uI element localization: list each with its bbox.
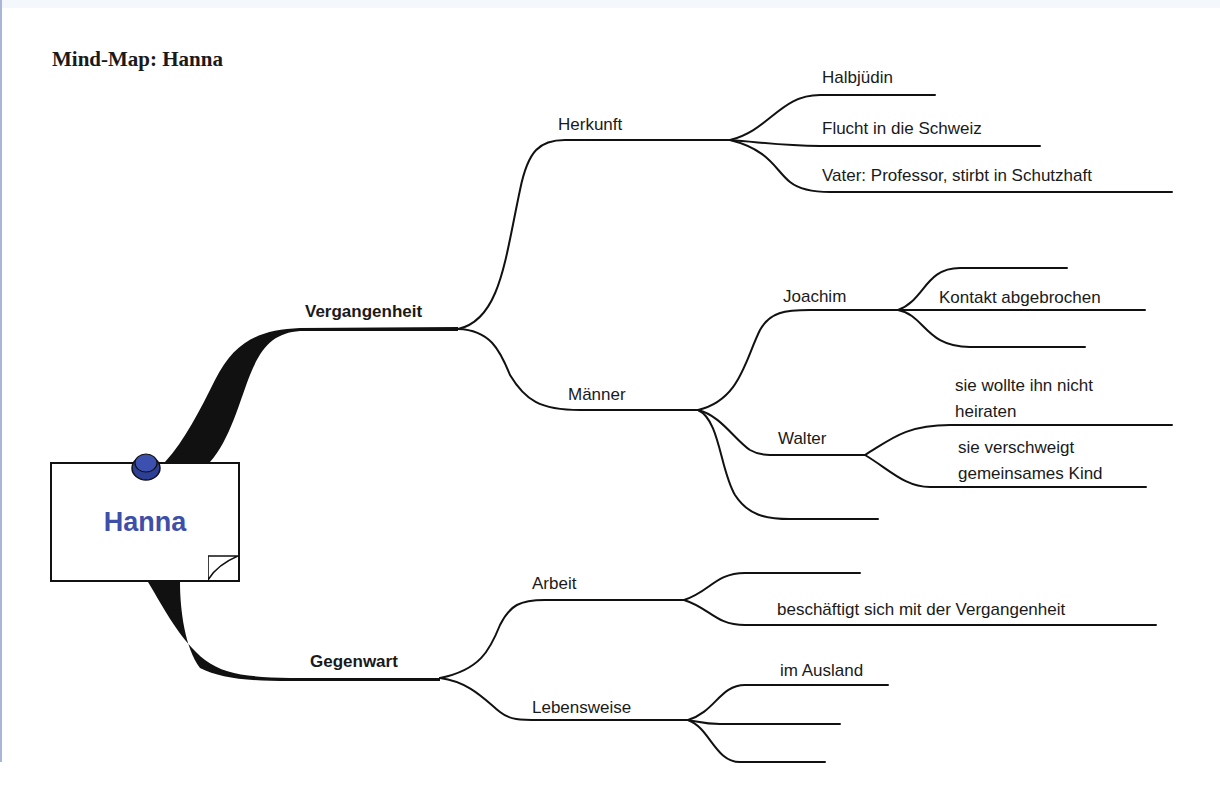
connector-vergangenheit bbox=[165, 327, 458, 462]
node-joachim[interactable]: Joachim bbox=[783, 287, 846, 307]
leaf-vater[interactable]: Vater: Professor, stirbt in Schutzhaft bbox=[822, 166, 1092, 186]
page-curl-icon bbox=[208, 552, 238, 580]
center-node-label: Hanna bbox=[52, 507, 238, 538]
leaf-verschweigt-kind[interactable]: sie verschweigt gemeinsames Kind bbox=[958, 435, 1148, 487]
leaf-flucht[interactable]: Flucht in die Schweiz bbox=[822, 119, 982, 139]
node-maenner[interactable]: Männer bbox=[568, 385, 626, 405]
connector-ausland bbox=[688, 685, 888, 720]
leaf-kontakt-abgebrochen[interactable]: Kontakt abgebrochen bbox=[939, 288, 1101, 308]
node-herkunft[interactable]: Herkunft bbox=[558, 115, 622, 135]
connector-flucht bbox=[730, 140, 1040, 146]
connector-joachim-3 bbox=[898, 310, 1085, 347]
leaf-im-ausland[interactable]: im Ausland bbox=[780, 661, 863, 681]
node-arbeit[interactable]: Arbeit bbox=[532, 574, 576, 594]
node-lebensweise[interactable]: Lebensweise bbox=[532, 698, 631, 718]
leaf-wollte-nicht-heiraten[interactable]: sie wollte ihn nicht heiraten bbox=[955, 373, 1155, 425]
connector-lebensweise-3 bbox=[688, 720, 825, 762]
connector-herkunft bbox=[458, 140, 730, 329]
connector-arbeit-1 bbox=[684, 573, 860, 600]
connector-lebensweise-2 bbox=[688, 720, 840, 724]
leaf-halbjuedin[interactable]: Halbjüdin bbox=[822, 68, 893, 88]
connector-joachim bbox=[698, 310, 898, 410]
connector-arbeit bbox=[440, 600, 684, 678]
pushpin-icon bbox=[131, 451, 161, 481]
branch-vergangenheit[interactable]: Vergangenheit bbox=[305, 302, 422, 322]
node-walter[interactable]: Walter bbox=[778, 429, 827, 449]
branch-gegenwart[interactable]: Gegenwart bbox=[310, 652, 398, 672]
leaf-beschaeftigt[interactable]: beschäftigt sich mit der Vergangenheit bbox=[777, 600, 1065, 620]
